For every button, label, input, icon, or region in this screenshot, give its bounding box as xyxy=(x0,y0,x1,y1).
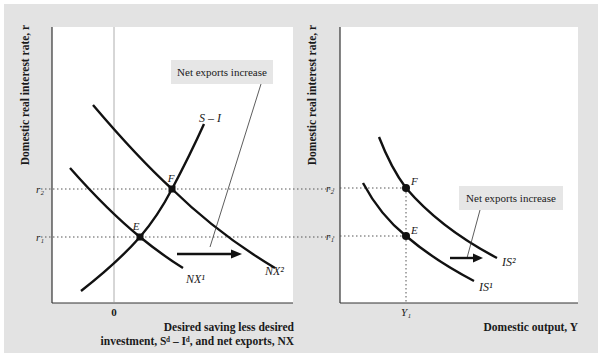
left-point-f-label: F xyxy=(167,172,175,184)
right-panel xyxy=(340,27,578,303)
left-x-axis-title-line2: investment, Sᵈ – Iᵈ, and net exports, NX xyxy=(101,335,295,348)
nx2-label: NX² xyxy=(264,264,284,278)
point-f-marker xyxy=(169,186,176,193)
right-point-f-label: F xyxy=(410,175,418,187)
s-minus-i-label: S – I xyxy=(199,111,222,125)
left-callout-text: Net exports increase xyxy=(177,66,267,78)
left-r1-label: r₁ xyxy=(36,231,44,243)
right-plot-area xyxy=(340,27,578,303)
is2-label: IS² xyxy=(501,255,516,269)
right-point-e-label: E xyxy=(410,224,418,236)
nx1-label: NX¹ xyxy=(185,272,205,286)
right-r1-label: r₁ xyxy=(326,230,334,242)
figure-svg: Domestic real interest rate, r r₂ r₁ 0 D… xyxy=(0,0,604,361)
zero-label: 0 xyxy=(111,306,117,318)
right-y-axis-title: Domestic real interest rate, r xyxy=(306,25,318,165)
right-x-axis-title: Domestic output, Y xyxy=(484,321,579,334)
is1-label: IS¹ xyxy=(478,280,493,294)
y1-label: Y₁ xyxy=(401,306,411,318)
right-callout-text: Net exports increase xyxy=(466,192,556,204)
left-x-axis-title-line1: Desired saving less desired xyxy=(164,321,295,334)
right-point-e-marker xyxy=(402,232,410,240)
left-y-axis-title: Domestic real interest rate, r xyxy=(19,25,31,165)
left-point-e-label: E xyxy=(132,220,140,232)
left-r2-label: r₂ xyxy=(36,183,44,195)
right-r2-label: r₂ xyxy=(326,182,334,194)
right-point-f-marker xyxy=(402,184,410,192)
point-e-marker xyxy=(137,234,144,241)
